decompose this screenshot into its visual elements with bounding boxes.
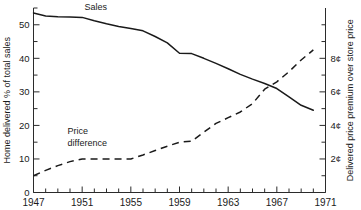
- series-annotation-2: Price: [68, 126, 89, 136]
- chart-canvas: 1947195119551959196319671971010203040502…: [0, 0, 361, 210]
- x-tick-label: 1971: [314, 197, 337, 208]
- y-tick-label-right: 6¢: [331, 86, 342, 97]
- x-tick-label: 1967: [266, 197, 289, 208]
- series-line-price-difference: [34, 50, 314, 176]
- chart-figure: 1947195119551959196319671971010203040502…: [0, 0, 361, 210]
- x-tick-label: 1963: [217, 197, 240, 208]
- y-tick-label-right: 4¢: [331, 120, 342, 131]
- left-axis-title: Home delivered % of total sales: [2, 36, 12, 163]
- y-tick-label-left: 50: [19, 19, 30, 30]
- y-tick-label-left: 40: [19, 53, 30, 64]
- x-tick-label: 1959: [168, 197, 191, 208]
- y-tick-label-right: 2¢: [331, 153, 342, 164]
- y-tick-label-left: 30: [19, 86, 30, 97]
- series-annotation-3: difference: [68, 138, 107, 148]
- x-tick-label: 1955: [120, 197, 143, 208]
- y-tick-label-right: 8¢: [331, 53, 342, 64]
- y-tick-label-left: 20: [19, 120, 30, 131]
- right-axis-title: Delivered price premium over store price: [345, 19, 355, 181]
- series-line-sales: [34, 13, 314, 110]
- series-annotation-1: Sales: [85, 2, 108, 12]
- y-tick-label-left: 0: [24, 187, 29, 198]
- x-tick-label: 1947: [22, 197, 45, 208]
- y-tick-label-left: 10: [19, 153, 30, 164]
- x-tick-label: 1951: [71, 197, 94, 208]
